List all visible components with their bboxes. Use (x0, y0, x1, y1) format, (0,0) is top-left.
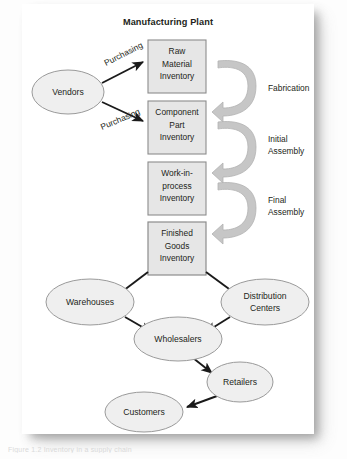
svg-text:Goods: Goods (165, 241, 190, 251)
box-raw-material-inventory: Raw Material Inventory (148, 40, 206, 93)
ellipse-warehouses: Warehouses (46, 279, 134, 325)
svg-text:Material: Material (162, 59, 192, 69)
process-label-final-assembly: Final Assembly (268, 195, 305, 217)
svg-text:Warehouses: Warehouses (66, 297, 114, 307)
ellipse-label: Customers (123, 407, 165, 417)
figure-caption: Figure 1.2 Inventory in a supply chain (8, 446, 238, 453)
ellipse-customers: Customers (105, 392, 183, 432)
box-line: Component (155, 107, 199, 117)
box-component-part-inventory: Component Part Inventory (148, 101, 206, 154)
svg-text:Inventory: Inventory (160, 132, 195, 142)
svg-text:Distribution: Distribution (244, 291, 287, 301)
arrow-retailers-to-customers (187, 396, 217, 407)
box-line: Inventory (160, 71, 195, 81)
svg-text:process: process (162, 181, 191, 191)
curved-arrow-fabrication-icon (212, 61, 256, 122)
process-label-line: Initial (268, 134, 288, 144)
process-label-line: Assembly (268, 207, 305, 217)
svg-text:Customers: Customers (123, 407, 165, 417)
svg-text:Retailers: Retailers (223, 377, 257, 387)
svg-text:Assembly: Assembly (268, 207, 305, 217)
svg-text:Work-in-: Work-in- (161, 168, 193, 178)
ellipse-vendors: Vendors (32, 70, 104, 114)
ellipse-distribution-centers: Distribution Centers (221, 279, 309, 325)
svg-text:Centers: Centers (250, 303, 280, 313)
process-label-fabrication: Fabrication (268, 83, 310, 93)
process-label-initial-assembly: Initial Assembly (268, 134, 305, 156)
page-title-text: Manufacturing Plant (123, 17, 213, 27)
svg-text:Initial: Initial (268, 134, 288, 144)
svg-text:Vendors: Vendors (52, 87, 84, 97)
page-title: Manufacturing Plant (123, 17, 213, 27)
curved-arrow-final-assembly-icon (212, 183, 256, 244)
svg-text:Inventory: Inventory (160, 71, 195, 81)
ellipse-retailers: Retailers (207, 362, 273, 402)
supply-chain-diagram: Manufacturing Plant Raw Material Invento… (22, 4, 314, 434)
process-label-line: Final (268, 195, 286, 205)
svg-text:Final: Final (268, 195, 286, 205)
svg-text:Wholesalers: Wholesalers (154, 334, 201, 344)
box-line: process (162, 181, 191, 191)
box-line: Inventory (160, 193, 195, 203)
box-line: Inventory (160, 253, 195, 263)
ellipse-wholesalers: Wholesalers (134, 317, 222, 361)
box-line: Goods (165, 241, 190, 251)
ellipse-label: Wholesalers (154, 334, 201, 344)
svg-text:Inventory: Inventory (160, 253, 195, 263)
svg-text:Raw: Raw (169, 46, 187, 56)
process-label-line: Fabrication (268, 83, 310, 93)
svg-text:Part: Part (169, 120, 185, 130)
svg-text:Component: Component (155, 107, 199, 117)
box-line: Raw (169, 46, 187, 56)
box-line: Finished (161, 228, 193, 238)
svg-text:Finished: Finished (161, 228, 193, 238)
curved-arrow-initial-assembly-icon (212, 122, 256, 183)
box-line: Inventory (160, 132, 195, 142)
process-label-line: Assembly (268, 146, 305, 156)
svg-text:Inventory: Inventory (160, 193, 195, 203)
ellipse-label-line: Distribution (244, 291, 287, 301)
ellipse-label: Vendors (52, 87, 84, 97)
ellipse-label: Warehouses (66, 297, 114, 307)
box-work-in-process-inventory: Work-in- process Inventory (148, 162, 206, 215)
box-line: Work-in- (161, 168, 193, 178)
ellipse-label: Retailers (223, 377, 257, 387)
ellipse-label-line: Centers (250, 303, 280, 313)
supply-chain-diagram-page: Manufacturing Plant Raw Material Invento… (22, 4, 314, 434)
svg-text:Assembly: Assembly (268, 146, 305, 156)
box-line: Part (169, 120, 185, 130)
box-line: Material (162, 59, 192, 69)
box-finished-goods-inventory: Finished Goods Inventory (148, 222, 206, 275)
